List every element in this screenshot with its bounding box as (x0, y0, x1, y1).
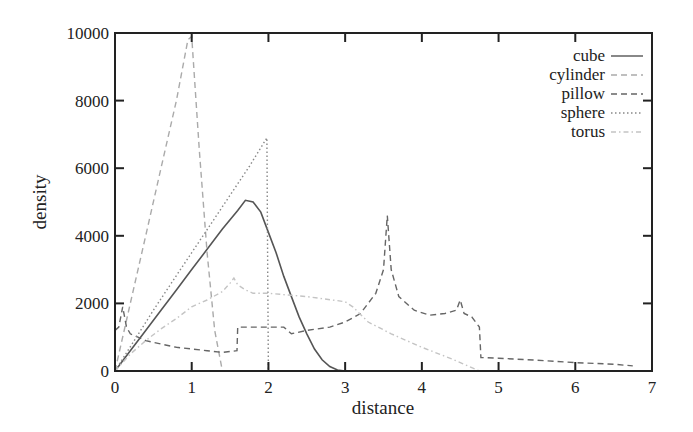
legend-label-pillow: pillow (562, 84, 606, 103)
series-cube (115, 200, 345, 371)
x-tick-label: 6 (571, 378, 580, 397)
x-axis-label: distance (352, 397, 414, 418)
line-chart: 01234567 0200040006000800010000 distance… (0, 0, 693, 432)
x-tick-label: 7 (648, 378, 657, 397)
legend: cubecylinderpillowspheretorus (549, 46, 643, 141)
x-tick-label: 3 (341, 378, 350, 397)
x-tick-label: 4 (418, 378, 427, 397)
series-pillow (115, 216, 633, 366)
x-tick-labels: 01234567 (111, 378, 657, 397)
series-torus (115, 278, 479, 371)
x-tick-label: 2 (264, 378, 273, 397)
y-axis-label: density (29, 174, 50, 229)
y-tick-label: 2000 (75, 294, 109, 313)
x-tick-label: 1 (187, 378, 196, 397)
x-tick-label: 0 (111, 378, 120, 397)
legend-label-sphere: sphere (561, 103, 605, 122)
y-tick-label: 10000 (67, 24, 110, 43)
y-tick-label: 4000 (75, 227, 109, 246)
y-tick-label: 0 (101, 362, 110, 381)
y-tick-label: 8000 (75, 92, 109, 111)
legend-label-cube: cube (573, 46, 605, 65)
series-layer (115, 36, 633, 371)
x-tick-label: 5 (494, 378, 503, 397)
series-sphere (115, 138, 268, 371)
series-cylinder (115, 36, 222, 371)
legend-label-torus: torus (571, 122, 605, 141)
legend-label-cylinder: cylinder (549, 65, 605, 84)
y-tick-label: 6000 (75, 159, 109, 178)
y-tick-labels: 0200040006000800010000 (67, 24, 110, 381)
